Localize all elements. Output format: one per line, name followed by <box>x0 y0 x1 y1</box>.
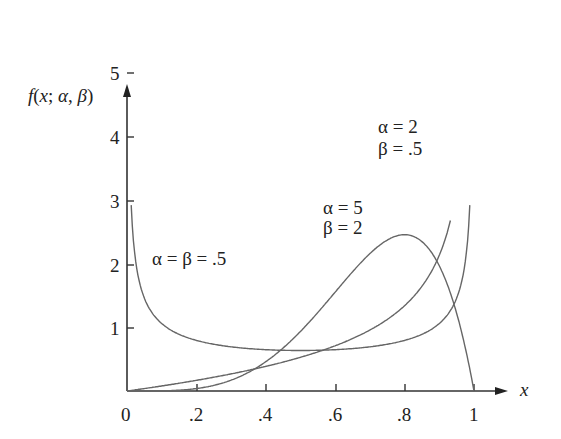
curve--2-.5 <box>127 221 450 392</box>
x-tick-0.2: .2 <box>189 404 203 425</box>
ticks <box>127 73 474 391</box>
beta-density-chart: ff(x; α, β)(x; α, β) 5 4 3 2 1 0 .2 .4 .… <box>0 0 561 439</box>
y-tick-4: 4 <box>110 127 120 148</box>
x-tick-0: 0 <box>121 404 131 425</box>
curve--.5 <box>131 205 470 350</box>
density-curves <box>127 205 474 391</box>
x-axis-label: x <box>519 379 529 400</box>
x-tick-0.8: .8 <box>397 404 411 425</box>
annotation-beta0.5-line2: β = .5 <box>378 138 422 159</box>
annotation-alpha5-line1: α = 5 <box>323 197 363 218</box>
y-tick-3: 3 <box>110 191 120 212</box>
y-tick-5: 5 <box>110 63 120 84</box>
x-tick-0.4: .4 <box>258 404 273 425</box>
y-tick-1: 1 <box>110 318 120 339</box>
annotation-alpha-beta-0.5: α = β = .5 <box>152 248 226 269</box>
x-tick-1: 1 <box>469 404 479 425</box>
annotation-beta2-line2: β = 2 <box>323 217 362 238</box>
x-axis-arrow-icon <box>495 387 508 395</box>
annotation-alpha2-line1: α = 2 <box>378 116 418 137</box>
x-tick-0.6: .6 <box>328 404 342 425</box>
y-axis-arrow-icon <box>123 84 131 97</box>
y-axis-label: ff(x; α, β)(x; α, β) <box>28 85 93 107</box>
y-tick-2: 2 <box>110 255 120 276</box>
